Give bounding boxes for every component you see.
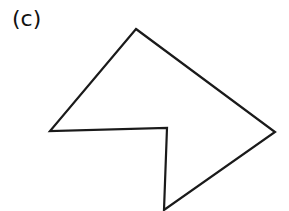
polygon-diagram	[0, 0, 289, 211]
concave-pentagon-shape	[50, 29, 275, 210]
